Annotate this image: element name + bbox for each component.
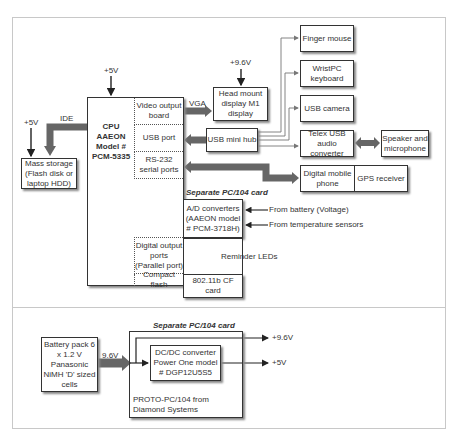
cpu-power-label: +5V xyxy=(104,66,118,76)
wristpc-keyboard-box: WristPC keyboard xyxy=(300,60,354,87)
dcdc-converter-box: DC/DC converter Power One model # DGP12U… xyxy=(150,345,221,381)
cpu-port-video-output: Video output board xyxy=(134,98,183,125)
head-mount-display-box: Head mount display M1 display xyxy=(213,87,268,121)
cpu-port-rs232: RS-232 serial ports xyxy=(134,152,183,179)
ad-converter-box: A/D converters (AAEON model # PCM-3718H) xyxy=(183,199,243,238)
ide-label: IDE xyxy=(60,114,73,124)
vga-label: VGA xyxy=(189,99,206,109)
hmd-power-label: +9.6V xyxy=(230,58,251,68)
reminder-leds-label: Reminder LEDs xyxy=(221,252,277,262)
cpu-port-compact-flash: Compact flash xyxy=(134,274,183,286)
finger-mouse-box: Finger mouse xyxy=(300,25,354,52)
storage-power-label: +5V xyxy=(24,118,38,128)
usb-mini-hub-box: USB mini hub xyxy=(206,128,258,152)
cpu-label: CPU AAEON Model # PCM-5335 xyxy=(87,117,135,167)
output-9v6-label: +9.6V xyxy=(272,333,293,343)
ad-input-temperature: From temperature sensors xyxy=(269,220,363,230)
battery-voltage-label: 9.6V xyxy=(102,351,118,361)
usb-camera-box: USB camera xyxy=(300,95,354,122)
digital-mobile-phone: Digital mobile phone xyxy=(301,166,355,191)
pc104-card-bottom-title: Separate PC/104 card xyxy=(153,321,235,331)
cpu-port-usb: USB port xyxy=(134,125,183,152)
battery-pack-box: Battery pack 6 x 1.2 V Panasonic NiMH 'D… xyxy=(41,337,98,392)
telex-audio-converter-box: Telex USB audio converter xyxy=(300,130,354,157)
serial-devices-box: Digital mobile phone GPS receiver xyxy=(300,165,408,192)
ad-input-battery: From battery (Voltage) xyxy=(269,205,349,215)
pc104-bottom-footer: PROTO-PC/104 from Diamond Systems xyxy=(133,395,213,415)
mass-storage-box: Mass storage (Flash disk or laptop HDD) xyxy=(21,158,77,189)
gps-receiver: GPS receiver xyxy=(355,166,407,191)
pc104-card-top-title: Separate PC/104 card xyxy=(186,188,268,198)
speaker-microphone-box: Speaker and microphone xyxy=(381,130,429,157)
cpu-port-digital-output: Digital output ports (Parallel port) xyxy=(134,237,183,274)
cf-card-box: 802.11b CF card xyxy=(183,274,243,298)
output-5v-label: +5V xyxy=(272,358,286,368)
